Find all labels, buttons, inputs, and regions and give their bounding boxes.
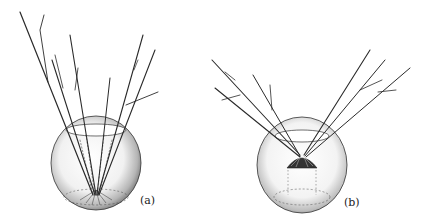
figure: (a) (b) [0,0,425,222]
bowl-a-icon [51,116,141,210]
panel-a: (a) [20,12,158,210]
panel-a-label: (a) [140,194,155,207]
panel-b-label: (b) [344,196,360,209]
panel-b: (b) [212,50,410,213]
